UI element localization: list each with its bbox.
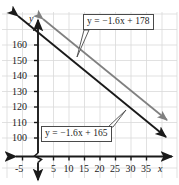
equation-label-lower: y = −1.6x + 165 [41,126,112,142]
x-tick-15: 15 [79,164,89,174]
y-tick-100: 100 [12,133,27,143]
plotted-line-lower [18,16,166,137]
y-tick-130: 130 [12,87,27,97]
callout-leader-upper [77,30,89,57]
x-tick-30: 30 [126,164,136,174]
x-tick-25: 25 [110,164,120,174]
y-tick-140: 140 [12,71,27,81]
equation-label-upper: y = −1.6x + 178 [83,14,154,30]
y-axis-label: y [29,14,33,24]
callout-leader-lower [108,110,126,127]
grid-lines [2,12,177,178]
graph-figure: 160 150 140 130 120 110 100 -5 5 10 15 2… [0,0,179,185]
x-tick-5: 5 [51,164,56,174]
y-tick-110: 110 [12,118,27,128]
x-tick-20: 20 [95,164,105,174]
x-tick-minus5: -5 [15,164,23,174]
y-tick-120: 120 [12,102,27,112]
plotted-line-upper [43,19,167,120]
x-tick-35: 35 [141,164,151,174]
x-tick-10: 10 [64,164,74,174]
x-axis-label: x [158,164,162,174]
y-tick-150: 150 [12,56,27,66]
y-tick-160: 160 [12,40,27,50]
